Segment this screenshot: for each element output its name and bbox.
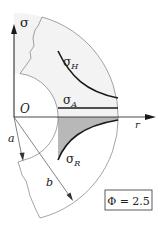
radius-b-label: b	[46, 176, 53, 189]
parameter-text: Φ = 2.5	[107, 195, 150, 208]
origin-label: O	[20, 102, 30, 116]
radial-stress-label: σR	[66, 152, 80, 168]
r-axis-arrow-icon	[145, 114, 156, 120]
sigma-axis-label: σ	[20, 15, 29, 30]
radius-b-arrow-icon	[67, 193, 74, 202]
stress-diagram: σ O r a b σH σA σR Φ = 2.5	[0, 0, 160, 234]
radius-a-label: a	[8, 132, 15, 145]
r-axis-label: r	[135, 119, 141, 130]
radius-a-arrow-icon	[20, 153, 25, 162]
jagged-cut-lower	[18, 160, 40, 218]
